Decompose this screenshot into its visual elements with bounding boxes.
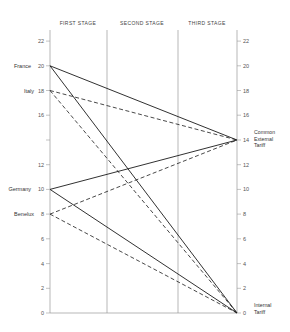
svg-text:6: 6 bbox=[243, 236, 246, 242]
svg-text:16: 16 bbox=[38, 112, 44, 118]
svg-text:18: 18 bbox=[38, 88, 44, 94]
stage-label-first: FIRST STAGE bbox=[60, 20, 97, 26]
svg-text:Tariff: Tariff bbox=[254, 309, 266, 315]
svg-text:0: 0 bbox=[243, 310, 246, 316]
svg-text:10: 10 bbox=[243, 186, 249, 192]
line-germany-to-cet bbox=[50, 140, 237, 189]
svg-text:Common: Common bbox=[254, 129, 275, 135]
svg-text:0: 0 bbox=[41, 310, 44, 316]
line-italy-to-cet bbox=[50, 91, 237, 141]
svg-text:20: 20 bbox=[38, 63, 44, 69]
svg-text:2: 2 bbox=[41, 285, 44, 291]
svg-text:18: 18 bbox=[243, 88, 249, 94]
internal-tariff-label: Internal Tariff bbox=[254, 302, 271, 315]
stage-label-second: SECOND STAGE bbox=[120, 20, 164, 26]
svg-text:2: 2 bbox=[243, 285, 246, 291]
svg-text:4: 4 bbox=[243, 261, 246, 267]
svg-text:External: External bbox=[254, 136, 273, 142]
line-germany-to-internal bbox=[50, 189, 237, 313]
label-italy: Italy bbox=[24, 88, 34, 94]
svg-text:4: 4 bbox=[41, 261, 44, 267]
svg-text:20: 20 bbox=[243, 63, 249, 69]
line-benelux-to-internal bbox=[50, 214, 237, 313]
tariff-convergence-chart: FIRST STAGE SECOND STAGE THIRD STAGE 0 2… bbox=[0, 0, 290, 332]
svg-text:16: 16 bbox=[243, 112, 249, 118]
svg-text:12: 12 bbox=[38, 162, 44, 168]
common-external-tariff-label: Common External Tariff bbox=[254, 129, 275, 148]
svg-text:Tariff: Tariff bbox=[254, 142, 266, 148]
svg-text:14: 14 bbox=[243, 137, 249, 143]
svg-text:8: 8 bbox=[41, 211, 44, 217]
line-italy-to-internal bbox=[50, 91, 237, 314]
line-benelux-to-cet bbox=[50, 140, 237, 214]
country-labels: France 20 Italy 18 Germany 10 Benelux 8 bbox=[8, 63, 44, 217]
svg-text:10: 10 bbox=[38, 186, 44, 192]
axes bbox=[50, 30, 237, 313]
label-germany: Germany bbox=[8, 186, 31, 192]
svg-text:22: 22 bbox=[243, 38, 249, 44]
stage-label-third: THIRD STAGE bbox=[188, 20, 226, 26]
svg-text:12: 12 bbox=[243, 162, 249, 168]
label-benelux: Benelux bbox=[14, 211, 34, 217]
label-france: France bbox=[14, 63, 31, 69]
svg-text:6: 6 bbox=[41, 236, 44, 242]
left-tick-labels: 0 2 4 6 12 16 22 bbox=[38, 38, 44, 316]
series-lines bbox=[50, 66, 237, 313]
svg-text:8: 8 bbox=[243, 211, 246, 217]
right-tick-labels: 0 2 4 6 8 10 12 14 16 18 20 22 bbox=[243, 38, 249, 316]
svg-text:Internal: Internal bbox=[254, 302, 271, 308]
svg-text:22: 22 bbox=[38, 38, 44, 44]
